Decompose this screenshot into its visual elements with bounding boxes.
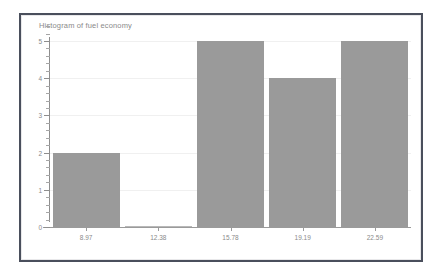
x-axis-tick	[303, 227, 304, 231]
plot-area: Histogram of fuel economy 012345 8.9712.…	[21, 15, 425, 264]
y-axis-tick-label: 3	[26, 112, 42, 119]
y-axis-tick-label: 4	[26, 75, 42, 82]
y-axis-tick	[44, 153, 50, 154]
y-axis-tick	[44, 115, 50, 116]
figure-frame: Histogram of fuel economy 012345 8.9712.…	[19, 13, 423, 262]
y-axis-minor-tick	[46, 175, 50, 176]
histogram-bar	[197, 41, 264, 227]
y-axis-minor-tick	[46, 86, 50, 87]
x-axis-tick-label: 15.78	[206, 234, 256, 241]
x-axis-tick-label: 22.59	[350, 234, 400, 241]
y-axis-tick	[44, 41, 50, 42]
y-axis-minor-tick	[46, 48, 50, 49]
x-axis-line	[43, 227, 411, 228]
x-axis-tick	[158, 227, 159, 231]
y-axis-minor-tick	[46, 101, 50, 102]
y-axis-tick-label: 1	[26, 186, 42, 193]
x-axis-tick	[375, 227, 376, 231]
y-axis-minor-tick	[46, 63, 50, 64]
y-axis-minor-tick	[46, 56, 50, 57]
y-axis-minor-tick	[46, 93, 50, 94]
y-axis-tick	[44, 78, 50, 79]
y-axis-minor-tick	[46, 108, 50, 109]
y-axis-minor-tick	[46, 197, 50, 198]
histogram-bar	[269, 78, 336, 227]
y-axis-tick	[44, 227, 50, 228]
y-axis-minor-tick	[46, 34, 50, 35]
histogram-bar	[341, 41, 408, 227]
y-axis-minor-tick	[46, 138, 50, 139]
y-axis-minor-tick	[46, 145, 50, 146]
y-axis-tick-label: 2	[26, 149, 42, 156]
figure-root: Histogram of fuel economy 012345 8.9712.…	[0, 0, 444, 279]
x-axis-tick-label: 19.19	[278, 234, 328, 241]
y-axis-tick	[44, 190, 50, 191]
y-axis-tick-label: 0	[26, 224, 42, 231]
y-axis-minor-tick	[46, 130, 50, 131]
x-axis-tick-label: 12.38	[133, 234, 183, 241]
y-axis-minor-tick	[46, 220, 50, 221]
y-axis-minor-tick	[46, 205, 50, 206]
y-axis-minor-tick	[46, 123, 50, 124]
y-axis-minor-tick	[46, 71, 50, 72]
x-axis-tick-label: 8.97	[61, 234, 111, 241]
y-axis-minor-tick	[46, 160, 50, 161]
histogram-bar	[53, 153, 120, 227]
x-axis-tick	[86, 227, 87, 231]
chart-title: Histogram of fuel economy	[39, 21, 132, 30]
y-axis-minor-tick	[46, 182, 50, 183]
x-axis-tick	[231, 227, 232, 231]
y-axis-minor-tick	[46, 167, 50, 168]
y-axis-minor-tick	[46, 212, 50, 213]
y-axis-tick-label: 5	[26, 38, 42, 45]
y-axis-minor-tick	[46, 26, 50, 27]
